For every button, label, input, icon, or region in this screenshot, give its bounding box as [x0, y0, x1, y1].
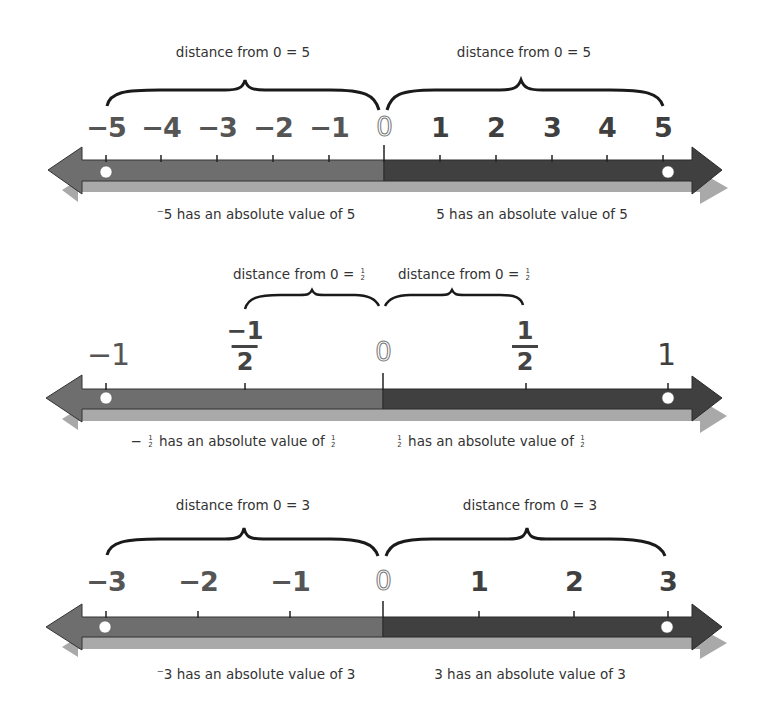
tick-label-4: 4 [598, 112, 616, 143]
tick-marks [106, 601, 668, 618]
tick-label-neg1: −1 [270, 566, 309, 597]
right-caption: 5 has an absolute value of 5 [436, 206, 628, 222]
tick-label-1: 1 [431, 112, 449, 143]
right-brace-icon [387, 80, 663, 110]
tick-marks [106, 145, 663, 162]
left-brace-icon [107, 80, 379, 110]
tick-label-neg3: −3 [86, 566, 125, 597]
tick-label-zero: 0 [375, 337, 391, 367]
point-negative-five [100, 166, 112, 178]
tick-label-neg4: −4 [141, 112, 180, 143]
tick-label-5: 5 [654, 112, 672, 143]
tick-label-1: 1 [470, 566, 488, 597]
left-caption: ⁻5 has an absolute value of 5 [157, 206, 356, 222]
minus-sign: − [131, 433, 142, 449]
left-caption: ⁻3 has an absolute value of 3 [157, 666, 356, 682]
tick-marks [106, 373, 668, 390]
number-line-panel-five: distance from 0 = 5 distance from 0 = 5 … [0, 0, 772, 240]
tick-label-half: 1 2 [512, 318, 538, 375]
caption-fraction: 1 2 [148, 435, 152, 449]
number-line-panel-half: distance from 0 = 1 2 distance from 0 = … [0, 240, 772, 470]
left-caption: − 1 2 has an absolute value of 1 2 [131, 433, 338, 449]
caption-fraction: 1 2 [580, 435, 584, 449]
left-brace-icon [107, 528, 378, 556]
point-three [661, 621, 673, 633]
tick-label-neg-half: −1 2 [227, 318, 264, 375]
tick-label-2: 2 [565, 566, 583, 597]
point-negative-one [100, 392, 112, 404]
tick-label-zero: 0 [376, 112, 392, 142]
right-caption: 1 2 has an absolute value of 1 2 [395, 433, 586, 449]
tick-label-neg2: −2 [178, 566, 217, 597]
tick-label-neg3: −3 [197, 112, 236, 143]
tick-label-neg1: −1 [87, 337, 129, 372]
tick-label-neg1: −1 [309, 112, 348, 143]
point-five [662, 166, 674, 178]
tick-label-neg5: −5 [86, 112, 125, 143]
point-negative-three [99, 621, 111, 633]
point-one [662, 392, 674, 404]
left-brace-icon [245, 290, 379, 309]
tick-label-2: 2 [487, 112, 505, 143]
tick-label-neg2: −2 [253, 112, 292, 143]
right-brace-icon [386, 528, 665, 556]
caption-text: has an absolute value of [408, 433, 574, 449]
caption-fraction: 1 2 [397, 435, 401, 449]
tick-label-zero: 0 [375, 566, 391, 596]
tick-label-3: 3 [659, 566, 677, 597]
right-brace-icon [385, 290, 523, 306]
tick-label-1: 1 [657, 337, 675, 372]
caption-fraction: 1 2 [331, 435, 335, 449]
tick-label-3: 3 [543, 112, 561, 143]
caption-text: has an absolute value of [159, 433, 325, 449]
number-line-panel-three: distance from 0 = 3 distance from 0 = 3 … [0, 470, 772, 712]
right-caption: 3 has an absolute value of 3 [434, 666, 626, 682]
